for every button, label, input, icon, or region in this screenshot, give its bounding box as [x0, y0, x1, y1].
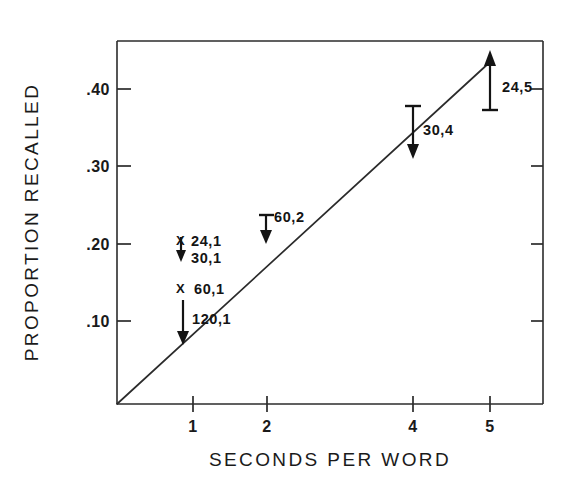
x-tick-label-5: 5 [485, 418, 494, 435]
datapoint-24-5: 24,5 [482, 50, 533, 110]
arrow-down-icon-3 [260, 230, 272, 244]
datapoint-60-1: X 60,1 [176, 281, 225, 297]
fit-line [117, 62, 490, 404]
point-label-60-2: 60,2 [274, 209, 305, 225]
y-tick-label-020: .20 [86, 236, 110, 253]
x-tick-label-2: 2 [262, 418, 271, 435]
scatter-chart: .40 .30 .20 .10 1 2 4 5 X 24,1 [0, 0, 572, 486]
x-tick-label-4: 4 [408, 418, 417, 435]
y-axis-ticks-left [117, 89, 131, 321]
datapoint-30-4: 30,4 [405, 106, 454, 159]
y-tick-label-040: .40 [86, 81, 110, 98]
x-tick-labels: 1 2 4 5 [188, 418, 494, 435]
datapoint-24-1: X 24,1 [176, 233, 222, 249]
y-tick-label-030: .30 [86, 158, 110, 175]
y-axis-title: PROPORTION RECALLED [21, 83, 42, 362]
point-label-120-1: 120,1 [192, 311, 231, 327]
arrow-down-icon-2 [177, 331, 189, 345]
y-axis-ticks-right [531, 89, 543, 321]
figure-panel: .40 .30 .20 .10 1 2 4 5 X 24,1 [0, 0, 572, 486]
x-tick-label-1: 1 [188, 418, 197, 435]
x-marker-glyph-2: X [176, 281, 185, 296]
y-tick-labels: .40 .30 .20 .10 [86, 81, 110, 330]
arrow-down-icon [176, 250, 186, 262]
plot-frame [117, 41, 543, 404]
point-label-30-4: 30,4 [423, 122, 454, 138]
arrow-down-icon-4 [407, 144, 419, 159]
point-label-24-1: 24,1 [191, 233, 222, 249]
point-label-60-1: 60,1 [194, 281, 225, 297]
arrow-up-icon [484, 50, 496, 66]
x-axis-title: SECONDS PER WORD [209, 449, 451, 470]
y-tick-label-010: .10 [86, 313, 110, 330]
point-label-24-5: 24,5 [502, 79, 533, 95]
point-label-30-1: 30,1 [191, 250, 222, 266]
